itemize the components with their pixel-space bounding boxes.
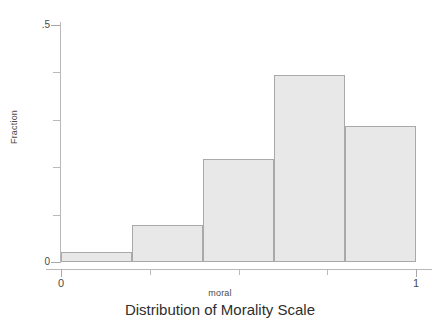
chart-title: Distribution of Morality Scale <box>0 301 440 319</box>
x-tick-mark <box>416 269 417 277</box>
histogram-bar <box>132 225 203 262</box>
histogram-bar <box>345 126 416 262</box>
y-tick-label: .5 <box>22 20 50 30</box>
y-tick-mark <box>51 262 60 263</box>
y-tick-mark <box>53 215 60 216</box>
y-tick-label-text: .5 <box>26 20 50 30</box>
plot-area <box>61 18 416 262</box>
x-tick-mark <box>327 269 328 275</box>
y-tick-mark <box>53 120 60 121</box>
y-tick-label-text: 0 <box>26 257 50 267</box>
histogram-bar <box>274 75 345 262</box>
histogram-bar <box>61 252 132 262</box>
y-tick-mark <box>53 72 60 73</box>
histogram-bar <box>203 159 274 262</box>
x-tick-mark <box>150 269 151 275</box>
y-axis-title: Fraction <box>9 92 19 162</box>
y-tick-mark <box>51 25 60 26</box>
x-tick-mark <box>61 269 62 277</box>
y-tick-label: 0 <box>22 257 50 267</box>
x-tick-mark <box>239 269 240 275</box>
histogram-figure: .50 01 Fraction moral Distribution of Mo… <box>0 0 440 323</box>
y-tick-mark <box>53 167 60 168</box>
x-axis-title: moral <box>0 288 440 298</box>
